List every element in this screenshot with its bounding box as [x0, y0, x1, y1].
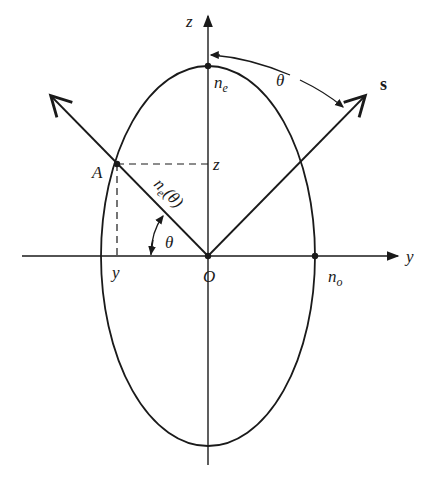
- theta-top-label: θ: [276, 71, 284, 90]
- s-vector-label: s: [380, 74, 387, 94]
- z-projection-label: z: [212, 155, 220, 174]
- s-vector: [208, 97, 364, 256]
- y-axis-label: y: [404, 247, 414, 266]
- ne-label: ne: [214, 73, 229, 95]
- z-axis-label: z: [185, 12, 193, 31]
- theta-bottom-label: θ: [165, 233, 173, 252]
- point-no: [312, 253, 318, 259]
- point-A: [114, 161, 120, 167]
- point-ne: [205, 63, 211, 69]
- ellipse-diagram: z y O ne no A z y s θ θ ne(θ): [0, 0, 440, 477]
- no-label: no: [328, 267, 343, 289]
- point-origin: [205, 253, 211, 259]
- y-projection-label: y: [110, 263, 120, 282]
- origin-label: O: [203, 267, 215, 286]
- theta-arc-top-end: [300, 80, 343, 107]
- ne-theta-label: ne(θ): [148, 174, 187, 213]
- A-label: A: [91, 163, 103, 182]
- theta-arc-bottom: [151, 216, 163, 255]
- ne-theta-vector: [52, 97, 208, 256]
